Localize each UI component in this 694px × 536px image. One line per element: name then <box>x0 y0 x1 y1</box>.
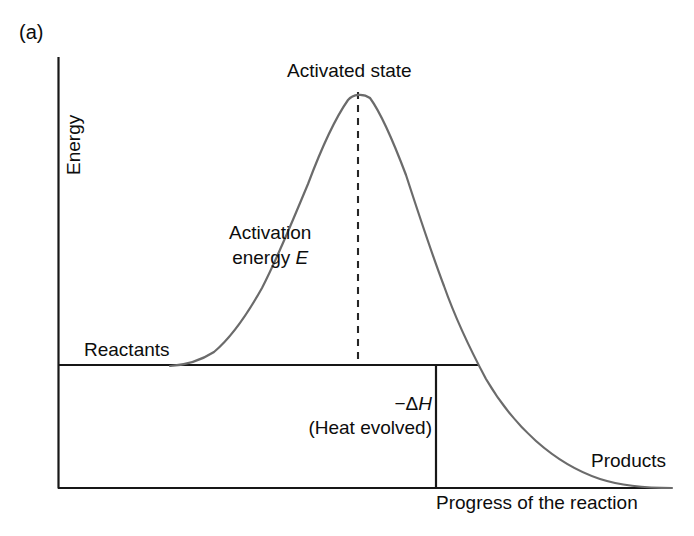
x-axis-label: Progress of the reaction <box>436 492 638 513</box>
activation-energy-symbol: E <box>296 247 309 268</box>
energy-profile-figure: (a) Energy Activated state Activation en… <box>0 0 694 536</box>
delta-h-sign: −Δ <box>394 393 418 414</box>
delta-h-symbol: H <box>418 393 432 414</box>
reactants-label: Reactants <box>84 339 170 360</box>
panel-label: (a) <box>19 22 43 43</box>
activation-energy-line-2: energy E <box>229 245 311 270</box>
activation-energy-line-1: Activation <box>229 220 311 245</box>
products-label: Products <box>591 450 666 471</box>
activation-energy-line-2-text: energy <box>232 247 295 268</box>
activation-energy-label: Activation energy E <box>229 220 311 270</box>
heat-evolved-label: (Heat evolved) <box>308 417 432 438</box>
delta-h-label: −ΔH <box>394 393 432 414</box>
y-axis-label: Energy <box>63 115 84 175</box>
activated-state-label: Activated state <box>287 60 412 81</box>
